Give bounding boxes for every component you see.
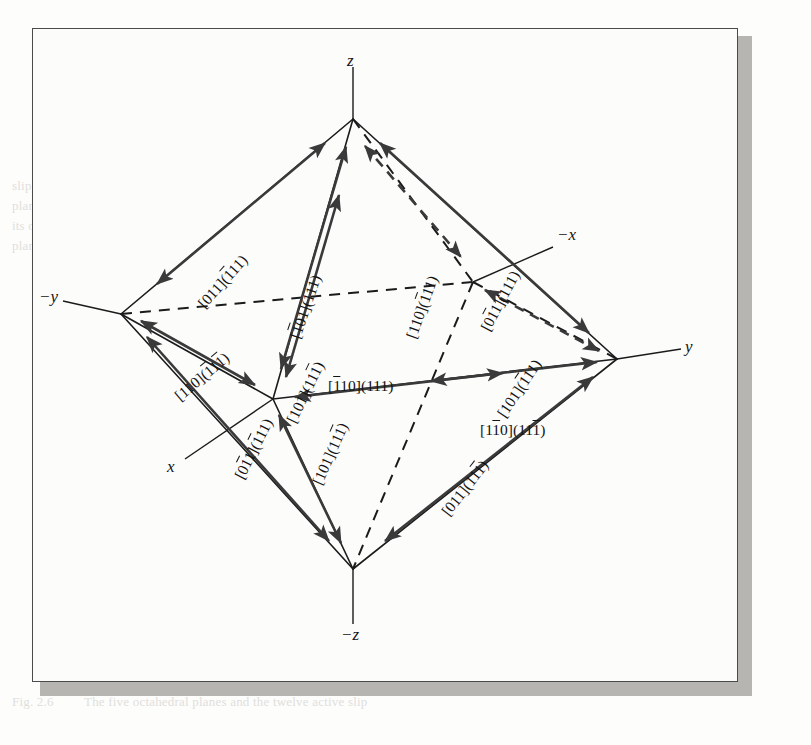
axis-label-x: x xyxy=(167,457,175,477)
slip-label-s8: [110](111) xyxy=(480,421,545,439)
axis-label-neg-x: −x xyxy=(557,225,576,245)
slip-arrow-s3 xyxy=(365,146,461,257)
slip-arrow-s12 xyxy=(385,377,593,541)
axis-line-y xyxy=(617,349,681,359)
octahedron-drawing xyxy=(33,29,738,682)
axis-line-neg-y xyxy=(63,301,121,314)
axis-label-z: z xyxy=(347,51,354,71)
axis-label-y: y xyxy=(685,337,693,357)
slip-label-s7: [110](111) xyxy=(328,377,393,395)
figure-frame: z −z y −y x −x [011](111) [101](111) [11… xyxy=(32,28,738,682)
axis-label-neg-z: −z xyxy=(341,625,359,645)
slip-arrow-s8 xyxy=(431,362,597,381)
slip-arrow-s10 xyxy=(147,337,329,541)
axis-label-neg-y: −y xyxy=(39,287,58,307)
